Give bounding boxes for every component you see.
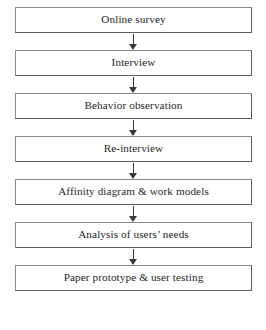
flow-step-analysis-of-users-needs: Analysis of users’ needs [15, 222, 252, 248]
arrow-down-icon-1 [127, 34, 140, 51]
flow-step-paper-prototype-user-testing: Paper prototype & user testing [15, 265, 252, 291]
arrow-down-icon-4 [127, 163, 140, 180]
flow-step-affinity-diagram-work-models: Affinity diagram & work models [15, 179, 252, 205]
arrow-down-icon-6 [127, 249, 140, 266]
flow-step-label: Interview [112, 57, 156, 68]
flow-step-label: Online survey [101, 14, 165, 25]
flowchart-diagram: Online survey Interview Behavior observa… [0, 0, 266, 330]
flow-step-behavior-observation: Behavior observation [15, 93, 252, 119]
flow-step-label: Paper prototype & user testing [64, 272, 204, 283]
flow-step-label: Affinity diagram & work models [58, 186, 209, 197]
flow-step-online-survey: Online survey [15, 7, 252, 33]
flow-step-label: Analysis of users’ needs [78, 229, 189, 240]
arrow-down-icon-3 [127, 120, 140, 137]
arrow-down-icon-5 [127, 206, 140, 223]
flow-step-re-interview: Re-interview [15, 136, 252, 162]
arrow-down-icon-2 [127, 77, 140, 94]
flow-step-label: Re-interview [104, 143, 164, 154]
flow-step-interview: Interview [15, 50, 252, 76]
flow-step-label: Behavior observation [84, 100, 182, 111]
